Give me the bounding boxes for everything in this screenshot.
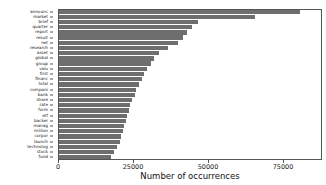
bar [58, 41, 178, 45]
bar [58, 114, 127, 118]
bar [58, 35, 183, 39]
y-axis-tick-mark [50, 146, 53, 147]
bar-chart-figure: announcmarketbriefquarterreportresultnet… [0, 0, 326, 185]
y-axis-tick-mark [50, 53, 53, 54]
bar [58, 72, 144, 76]
bar [58, 15, 255, 19]
x-axis-tick-label: 50000 [198, 163, 219, 171]
bar [58, 119, 126, 123]
bar [58, 129, 123, 133]
x-axis-tick-label: 25000 [123, 163, 144, 171]
bar [58, 140, 120, 144]
y-axis-tick-mark [50, 110, 53, 111]
bar [58, 46, 168, 50]
bar [58, 98, 132, 102]
y-axis-tick-mark [50, 115, 53, 116]
bar [58, 67, 147, 71]
y-axis-tick-mark [50, 37, 53, 38]
bar-series [58, 9, 322, 160]
bar [58, 77, 142, 81]
y-axis-tick-labels: announcmarketbriefquarterreportresultnet… [0, 9, 53, 160]
y-axis-tick-mark [50, 157, 53, 158]
bar [58, 61, 151, 65]
bar [58, 108, 129, 112]
y-axis-tick-mark [50, 141, 53, 142]
y-axis-tick-mark [50, 84, 53, 85]
bar [58, 9, 300, 13]
y-axis-tick-mark [50, 48, 53, 49]
y-axis-tick-mark [50, 63, 53, 64]
bar [58, 145, 117, 149]
plot-area [58, 9, 322, 160]
x-axis-tick-label: 0 [56, 163, 60, 171]
x-axis-tick-label: 75000 [273, 163, 294, 171]
y-axis-tick-mark [50, 120, 53, 121]
axis-spine-top [58, 9, 322, 10]
bar [58, 82, 139, 86]
y-axis-tick-mark [50, 74, 53, 75]
bar [58, 124, 124, 128]
y-axis-tick-mark [50, 58, 53, 59]
bar [58, 20, 198, 24]
bar [58, 103, 130, 107]
bar [58, 51, 159, 55]
y-axis-tick-mark [50, 126, 53, 127]
y-axis-tick-mark [50, 11, 53, 12]
x-axis-label: Number of occurrences [58, 171, 322, 181]
y-axis-tick-mark [50, 89, 53, 90]
y-axis-tick-mark [50, 22, 53, 23]
y-axis-tick-mark [50, 136, 53, 137]
y-axis-tick-mark [50, 94, 53, 95]
y-axis-tick-mark [50, 105, 53, 106]
bar [58, 30, 187, 34]
bar [58, 25, 192, 29]
y-axis-tick-mark [50, 27, 53, 28]
bar [58, 134, 121, 138]
y-axis-tick-mark [50, 152, 53, 153]
bar [58, 93, 135, 97]
axis-spine-right [321, 9, 322, 160]
y-axis-tick-mark [50, 68, 53, 69]
bar [58, 150, 114, 154]
y-axis-tick-label: fund [39, 155, 48, 160]
y-axis-tick-mark [50, 42, 53, 43]
bar [58, 56, 154, 60]
y-axis-tick-mark [50, 79, 53, 80]
y-axis-tick-mark [50, 16, 53, 17]
y-axis-tick-mark [50, 32, 53, 33]
bar [58, 88, 136, 92]
y-axis-tick-mark [50, 100, 53, 101]
y-axis-tick-mark [50, 131, 53, 132]
axis-spine-left [58, 9, 59, 160]
